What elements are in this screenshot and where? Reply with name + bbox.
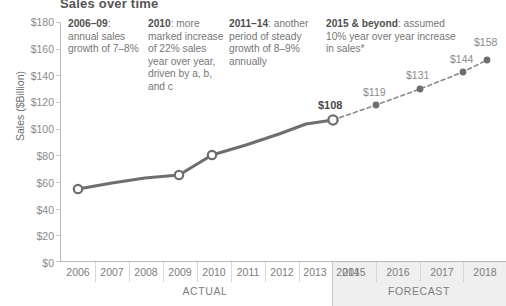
actual-point-2009 (175, 171, 183, 179)
data-label-2016: $131 (406, 69, 429, 81)
data-label-2018: $158 (474, 36, 497, 48)
data-label-2015: $119 (363, 86, 386, 98)
actual-point-2014 (328, 115, 337, 124)
forecast-point-2017 (460, 69, 467, 76)
actual-line (78, 120, 333, 189)
data-label-2017: $144 (450, 53, 473, 65)
forecast-point-2015 (373, 102, 380, 109)
actual-point-2006 (74, 185, 82, 193)
sales-over-time-chart: Sales over time Sales ($Billion) $180 $1… (0, 0, 506, 306)
actual-point-2010 (208, 151, 216, 159)
data-label-2014: $108 (318, 99, 342, 111)
forecast-point-2016 (417, 86, 424, 93)
forecast-point-2018 (484, 57, 491, 64)
chart-plot-svg (0, 0, 506, 306)
